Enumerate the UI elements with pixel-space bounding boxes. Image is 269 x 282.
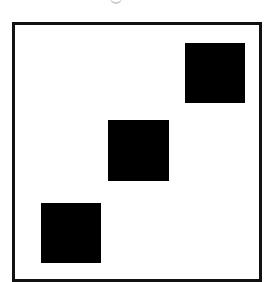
square-bottom-left [41,203,101,263]
square-top-right [185,43,245,103]
cropped-top-glyph [110,0,122,4]
square-middle [108,120,169,181]
